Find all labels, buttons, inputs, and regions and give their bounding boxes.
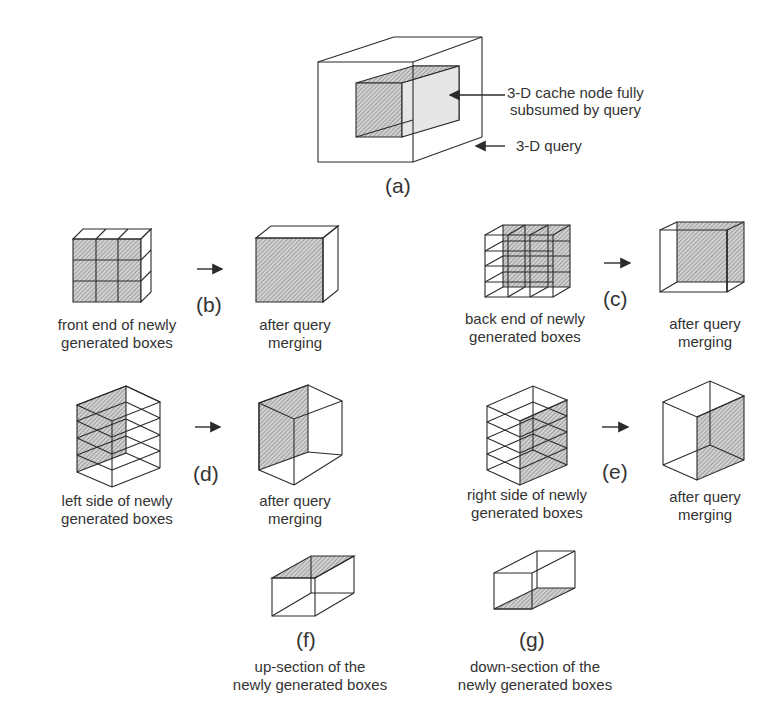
panel-b-before-label-line1: front end of newly xyxy=(42,316,192,334)
panel-e-tag: (e) xyxy=(602,460,628,484)
panel-g-tag: (g) xyxy=(519,628,545,652)
panel-g-label-line1: down-section of the xyxy=(455,658,615,676)
panel-c-after-cube xyxy=(660,222,744,292)
panel-c-before-label-line2: generated boxes xyxy=(450,328,600,346)
panel-a-query-box xyxy=(318,37,482,162)
panel-e-before-label-line1: right side of newly xyxy=(452,486,602,504)
panel-f-label-line1: up-section of the xyxy=(230,658,390,676)
cache-node-label-line1: 3-D cache node fully xyxy=(507,84,644,102)
panel-g-box xyxy=(494,551,575,609)
panel-b-tag: (b) xyxy=(196,293,222,317)
panel-b-after-label-line2: merging xyxy=(240,334,350,352)
panel-f-box xyxy=(272,556,354,616)
panel-c-tag: (c) xyxy=(603,287,628,311)
panel-d-before-label-line1: left side of newly xyxy=(42,492,192,510)
cache-node-label-line2: subsumed by query xyxy=(510,101,641,119)
panel-e-after-label-line1: after query xyxy=(650,488,760,506)
panel-d-after-label-line2: merging xyxy=(240,510,350,528)
diagram-canvas xyxy=(0,0,778,720)
panel-c-after-label-line1: after query xyxy=(650,315,760,333)
panel-d-tag: (d) xyxy=(193,462,219,486)
panel-c-before-cube xyxy=(485,225,570,297)
panel-e-before-cube xyxy=(487,386,567,485)
panel-f-tag: (f) xyxy=(296,628,316,652)
panel-d-before-label-line2: generated boxes xyxy=(42,510,192,528)
panel-c-before-label-line1: back end of newly xyxy=(450,310,600,328)
cache-node-box xyxy=(356,66,459,137)
panel-b-before-label-line2: generated boxes xyxy=(42,334,192,352)
panel-d-after-label-line1: after query xyxy=(240,492,350,510)
panel-e-after-label-line2: merging xyxy=(650,506,760,524)
panel-g-label-line2: newly generated boxes xyxy=(455,676,615,694)
panel-f-label-line2: newly generated boxes xyxy=(230,676,390,694)
panel-c-after-label-line2: merging xyxy=(650,333,760,351)
panel-e-before-label-line2: generated boxes xyxy=(452,504,602,522)
panel-b-after-label-line1: after query xyxy=(240,316,350,334)
panel-b-before-cube xyxy=(73,229,151,302)
query-label: 3-D query xyxy=(516,137,582,155)
panel-d-after-cube xyxy=(259,385,342,485)
panel-e-after-cube xyxy=(663,381,744,480)
panel-d-before-cube xyxy=(77,386,160,487)
panel-a-tag: (a) xyxy=(385,174,411,198)
panel-b-after-cube xyxy=(256,226,338,302)
